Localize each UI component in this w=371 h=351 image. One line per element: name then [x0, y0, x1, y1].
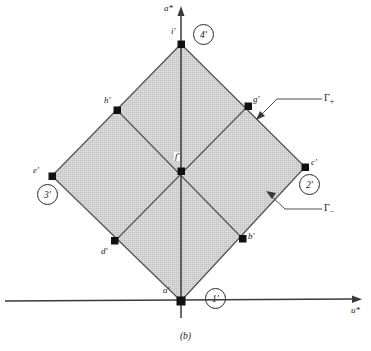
point-label-h-prime: h' — [104, 96, 110, 105]
point-h-prime — [114, 107, 122, 115]
x-axis-label: u* — [351, 305, 360, 315]
point-g-prime — [245, 103, 253, 111]
point-b-prime — [239, 235, 247, 243]
point-a-prime — [177, 297, 186, 306]
y-axis-arrowhead — [178, 6, 185, 16]
point-i-prime — [178, 41, 186, 49]
region-label-3: 3' — [37, 184, 58, 205]
point-f-prime — [178, 168, 186, 176]
point-label-c-prime: c' — [311, 158, 317, 167]
point-label-i-prime: i' — [171, 27, 175, 36]
point-label-a-prime: a' — [163, 286, 169, 295]
point-label-d-prime: d' — [101, 247, 107, 256]
point-label-g-prime: g' — [253, 95, 259, 104]
region-label-1: 1' — [205, 288, 226, 309]
gamma-plus-subscript: + — [330, 97, 335, 106]
gamma-minus-label: Γ− — [324, 202, 334, 216]
y-axis-label: a* — [164, 3, 173, 13]
point-c-prime — [302, 164, 310, 172]
figure-caption: (b) — [0, 331, 371, 341]
x-axis-arrowhead — [352, 296, 362, 304]
point-e-prime — [49, 173, 57, 181]
point-label-f-prime: f' — [174, 152, 180, 161]
point-label-e-prime: e' — [33, 166, 39, 175]
gamma-minus-subscript: − — [330, 207, 335, 216]
point-label-b-prime: b' — [248, 232, 254, 241]
region-label-4: 4' — [193, 24, 214, 45]
region-label-2: 2' — [299, 174, 320, 195]
gamma-plus-label: Γ+ — [324, 92, 334, 106]
point-d-prime — [111, 237, 119, 245]
